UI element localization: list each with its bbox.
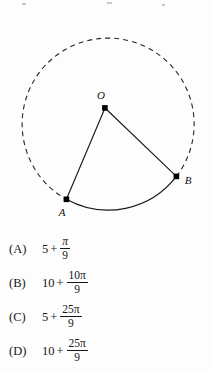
question-page: O A B (A) 5 + π 9 (B) 10 + 10π (0, 0, 211, 372)
choice-a-fraction: π 9 (60, 236, 70, 262)
choice-d-fraction: 25π 9 (67, 338, 88, 364)
point-b-dot (174, 174, 180, 180)
choice-expression-c: 5 + 25π 9 (42, 304, 82, 330)
choice-a-operator: + (50, 242, 57, 257)
choice-tag-d: (D) (9, 344, 35, 359)
answer-choice-b[interactable]: (B) 10 + 10π 9 (0, 266, 211, 300)
choice-a-denominator: 9 (60, 248, 70, 261)
choice-c-denominator: 9 (60, 316, 81, 329)
choice-c-fraction: 25π 9 (60, 304, 81, 330)
choice-c-whole: 5 (42, 310, 48, 325)
choice-b-numerator: 10π (67, 270, 88, 282)
choice-expression-b: 10 + 10π 9 (42, 270, 88, 296)
solid-minor-arc-ab (66, 176, 176, 210)
point-label-a: A (58, 206, 66, 218)
choice-tag-a: (A) (9, 242, 35, 257)
choice-c-numerator: 25π (60, 304, 81, 316)
choice-expression-d: 10 + 25π 9 (42, 338, 88, 364)
choice-a-whole: 5 (42, 242, 48, 257)
choice-c-operator: + (50, 310, 57, 325)
answer-choice-list: (A) 5 + π 9 (B) 10 + 10π 9 (C) (0, 232, 211, 372)
radius-oa (66, 108, 105, 199)
choice-tag-b: (B) (9, 276, 35, 291)
choice-d-denominator: 9 (67, 350, 88, 363)
choice-d-whole: 10 (42, 344, 55, 359)
choice-expression-a: 5 + π 9 (42, 236, 70, 262)
point-label-b: B (185, 174, 192, 186)
choice-b-fraction: 10π 9 (67, 270, 88, 296)
dashed-major-arc (22, 38, 194, 199)
answer-choice-c[interactable]: (C) 5 + 25π 9 (0, 300, 211, 334)
radius-ob (105, 108, 176, 176)
choice-d-operator: + (57, 344, 64, 359)
circle-diagram: O A B (0, 0, 211, 232)
center-label-o: O (97, 89, 105, 101)
choice-b-whole: 10 (42, 276, 55, 291)
answer-choice-d[interactable]: (D) 10 + 25π 9 (0, 334, 211, 368)
choice-a-numerator: π (60, 236, 70, 248)
point-a-dot (64, 197, 70, 203)
choice-d-numerator: 25π (67, 338, 88, 350)
choice-tag-c: (C) (9, 310, 35, 325)
choice-b-operator: + (57, 276, 64, 291)
choice-b-denominator: 9 (67, 282, 88, 295)
center-point-dot (102, 105, 108, 111)
answer-choice-a[interactable]: (A) 5 + π 9 (0, 232, 211, 266)
